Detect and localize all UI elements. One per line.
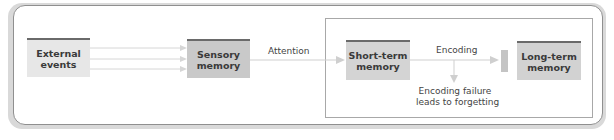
arrow-external-to-sensory — [90, 45, 187, 72]
node-label-line1: External — [36, 48, 81, 59]
node-long-term-memory: Long-term memory — [517, 41, 581, 80]
edge-label-encoding: Encoding — [436, 45, 477, 55]
edge-label-attention: Attention — [268, 46, 310, 56]
forgetting-note-line2: leads to forgetting — [416, 97, 494, 108]
node-label-line2: memory — [521, 62, 577, 73]
node-label-line2: memory — [349, 61, 408, 72]
node-label-line2: events — [36, 59, 81, 70]
arrow-encoding-failure — [450, 60, 458, 83]
node-label-line1: Long-term — [521, 51, 577, 62]
node-label-line1: Short-term — [349, 50, 408, 61]
forgetting-note-line1: Encoding failure — [416, 86, 494, 97]
node-label-line1: Sensory — [197, 49, 241, 60]
encoding-gate-bar — [501, 50, 508, 72]
node-sensory-memory: Sensory memory — [187, 39, 250, 78]
node-label-line2: memory — [197, 60, 241, 71]
node-short-term-memory: Short-term memory — [346, 40, 410, 80]
node-external-events: External events — [27, 38, 90, 77]
forgetting-note: Encoding failure leads to forgetting — [416, 86, 494, 108]
arrow-attention — [250, 56, 345, 64]
